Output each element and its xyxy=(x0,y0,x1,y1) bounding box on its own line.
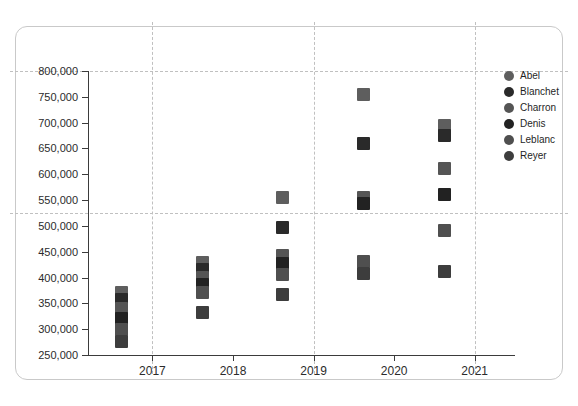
data-point-marker xyxy=(438,265,451,278)
horizontal-gridline xyxy=(10,71,568,72)
data-point-marker xyxy=(276,191,289,204)
y-axis-line xyxy=(88,71,89,356)
y-axis-tick xyxy=(82,200,88,201)
data-point-marker xyxy=(438,129,451,142)
data-point-marker xyxy=(357,137,370,150)
vertical-gridline xyxy=(314,22,315,374)
data-point-marker xyxy=(357,88,370,101)
plot-area: 250,000300,000350,000400,000450,000500,0… xyxy=(0,0,578,406)
y-axis-tick-label: 550,000 xyxy=(14,195,78,206)
vertical-gridline xyxy=(475,22,476,374)
legend-item[interactable]: Leblanc xyxy=(504,133,574,147)
x-axis-tick xyxy=(233,355,234,361)
data-point-marker xyxy=(438,188,451,201)
y-axis-tick-label: 300,000 xyxy=(14,324,78,335)
legend-swatch-circle-icon xyxy=(504,151,514,161)
y-axis-tick-label: 600,000 xyxy=(14,169,78,180)
y-axis-tick xyxy=(82,97,88,98)
y-axis-tick-label: 700,000 xyxy=(14,118,78,129)
y-axis-tick xyxy=(82,174,88,175)
data-point-marker xyxy=(438,162,451,175)
legend-swatch-circle-icon xyxy=(504,87,514,97)
y-axis-tick-label: 750,000 xyxy=(14,92,78,103)
legend-swatch-circle-icon xyxy=(504,71,514,81)
legend-item[interactable]: Reyer xyxy=(504,149,574,163)
y-axis-tick-label: 250,000 xyxy=(14,350,78,361)
data-point-marker xyxy=(357,197,370,210)
data-point-marker xyxy=(276,221,289,234)
legend-swatch-circle-icon xyxy=(504,119,514,129)
legend-item[interactable]: Charron xyxy=(504,101,574,115)
y-axis-tick xyxy=(82,252,88,253)
y-axis-tick xyxy=(82,226,88,227)
legend-item-label: Reyer xyxy=(520,151,547,161)
horizontal-gridline xyxy=(10,213,568,214)
vertical-gridline xyxy=(152,22,153,374)
chart-container: 250,000300,000350,000400,000450,000500,0… xyxy=(0,0,578,406)
legend-item-label: Charron xyxy=(520,103,556,113)
y-axis-tick-label: 450,000 xyxy=(14,247,78,258)
x-axis-tick-label: 2018 xyxy=(203,364,263,378)
y-axis-tick xyxy=(82,71,88,72)
data-point-marker xyxy=(115,323,128,336)
legend-item-label: Denis xyxy=(520,119,546,129)
y-axis-tick xyxy=(82,278,88,279)
y-axis-tick xyxy=(82,123,88,124)
x-axis-tick-label: 2020 xyxy=(364,364,424,378)
data-point-marker xyxy=(115,335,128,348)
x-axis-tick-label: 2017 xyxy=(122,364,182,378)
data-point-marker xyxy=(196,286,209,299)
chart-legend: AbelBlanchetCharronDenisLeblancReyer xyxy=(504,69,574,165)
data-point-marker xyxy=(438,224,451,237)
data-point-marker xyxy=(196,306,209,319)
data-point-marker xyxy=(357,267,370,280)
x-axis-tick xyxy=(152,355,153,361)
legend-item-label: Blanchet xyxy=(520,87,559,97)
legend-item[interactable]: Blanchet xyxy=(504,85,574,99)
y-axis-tick-label: 800,000 xyxy=(14,66,78,77)
x-axis-tick xyxy=(475,355,476,361)
x-axis-tick-label: 2021 xyxy=(445,364,505,378)
y-axis-tick-label: 500,000 xyxy=(14,221,78,232)
y-axis-tick-label: 350,000 xyxy=(14,298,78,309)
data-point-marker xyxy=(357,255,370,268)
y-axis-tick-label: 650,000 xyxy=(14,143,78,154)
y-axis-tick xyxy=(82,303,88,304)
legend-swatch-circle-icon xyxy=(504,135,514,145)
legend-item-label: Abel xyxy=(520,71,540,81)
y-axis-tick-label: 400,000 xyxy=(14,273,78,284)
legend-swatch-circle-icon xyxy=(504,103,514,113)
legend-item[interactable]: Abel xyxy=(504,69,574,83)
x-axis-tick-label: 2019 xyxy=(284,364,344,378)
data-point-marker xyxy=(276,268,289,281)
legend-item[interactable]: Denis xyxy=(504,117,574,131)
legend-item-label: Leblanc xyxy=(520,135,555,145)
x-axis-tick xyxy=(314,355,315,361)
x-axis-tick xyxy=(394,355,395,361)
y-axis-tick xyxy=(82,355,88,356)
y-axis-tick xyxy=(82,329,88,330)
y-axis-tick xyxy=(82,148,88,149)
data-point-marker xyxy=(276,288,289,301)
